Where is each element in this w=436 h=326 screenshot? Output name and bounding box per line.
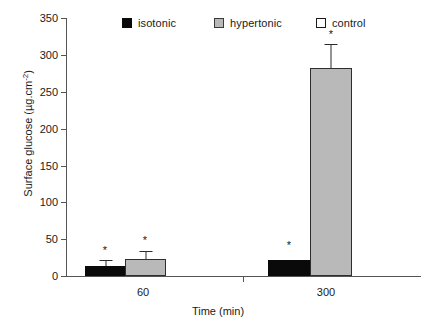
error-bar-stem	[145, 252, 146, 259]
error-bar-isotonic-60	[85, 261, 126, 266]
bar-isotonic-60	[85, 266, 126, 276]
significance-star-hypertonic-300: *	[324, 29, 338, 40]
x-tick-label-60: 60	[113, 287, 173, 298]
error-bar-hypertonic-300	[310, 45, 352, 68]
y-tick-label-0: 0	[28, 271, 58, 282]
error-bar-cap	[325, 44, 338, 45]
significance-star-isotonic-60: *	[98, 245, 112, 256]
y-axis-title: Surface glucose (µg.cm-2)	[20, 23, 35, 243]
error-bar-hypertonic-60	[125, 252, 166, 259]
bar-hypertonic-60	[125, 259, 166, 276]
bar-hypertonic-300	[310, 68, 352, 276]
significance-star-hypertonic-60: *	[138, 235, 152, 246]
error-bar-cap	[139, 251, 152, 252]
error-bar-cap	[99, 260, 112, 261]
bar-isotonic-300	[268, 260, 310, 276]
error-bar-stem	[105, 261, 106, 266]
x-tick-label-300: 300	[296, 287, 356, 298]
plot-area: * * * *	[66, 18, 420, 276]
y-axis-title-tail: )	[22, 70, 34, 74]
error-bar-stem	[331, 45, 332, 68]
y-axis-title-main: Surface glucose (µg.cm	[22, 81, 34, 197]
y-axis-title-exponent: -2	[21, 74, 30, 81]
x-axis-title: Time (min)	[0, 306, 436, 317]
significance-star-isotonic-300: *	[282, 240, 296, 251]
bar-chart: isotonic hypertonic control 0 50 100 150…	[0, 0, 436, 326]
x-tick-mid	[243, 277, 244, 282]
